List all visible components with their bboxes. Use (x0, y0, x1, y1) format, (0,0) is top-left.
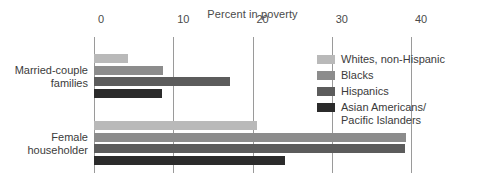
legend-item-blacks: Blacks (317, 69, 478, 82)
legend-label-whites: Whites, non-Hispanic (341, 53, 445, 66)
legend-item-whites: Whites, non-Hispanic (317, 53, 478, 66)
bar-married-couple-blacks (94, 66, 163, 75)
bar-married-couple-asian-americans (94, 89, 162, 98)
bar-female-householder-asian-americans (94, 156, 285, 165)
legend-label-hispanics: Hispanics (341, 85, 389, 98)
x-tick-label-0: 0 (98, 13, 104, 25)
legend-swatch-blacks (317, 71, 335, 80)
bar-female-householder-hispanics (94, 144, 405, 153)
chart-legend: Whites, non-Hispanic Blacks Hispanics As… (317, 53, 478, 130)
legend-swatch-asian-americans (317, 103, 335, 112)
legend-item-asian-americans: Asian Americans/Pacific Islanders (317, 101, 478, 126)
legend-item-hispanics: Hispanics (317, 85, 478, 98)
x-tick-label-20: 20 (257, 13, 269, 25)
category-label-married-couple-families: Married-couplefamilies (0, 64, 88, 89)
legend-label-asian-americans: Asian Americans/Pacific Islanders (341, 101, 426, 126)
category-label-female-householder: Femalehouseholder (0, 131, 88, 156)
bar-married-couple-whites (94, 54, 128, 63)
legend-swatch-whites (317, 55, 335, 64)
category-axis-labels: Married-couplefamilies Femalehouseholder (0, 0, 88, 185)
poverty-bar-chart: Percent in poverty Married-couplefamilie… (0, 0, 478, 185)
legend-swatch-hispanics (317, 87, 335, 96)
x-tick-label-40: 40 (415, 13, 427, 25)
chart-title: Percent in poverty (94, 8, 411, 20)
bar-female-householder-blacks (94, 133, 406, 142)
x-tick-label-10: 10 (177, 13, 189, 25)
bar-married-couple-hispanics (94, 77, 230, 86)
x-tick-label-30: 30 (336, 13, 348, 25)
bar-female-householder-whites (94, 121, 257, 130)
legend-label-blacks: Blacks (341, 69, 373, 82)
